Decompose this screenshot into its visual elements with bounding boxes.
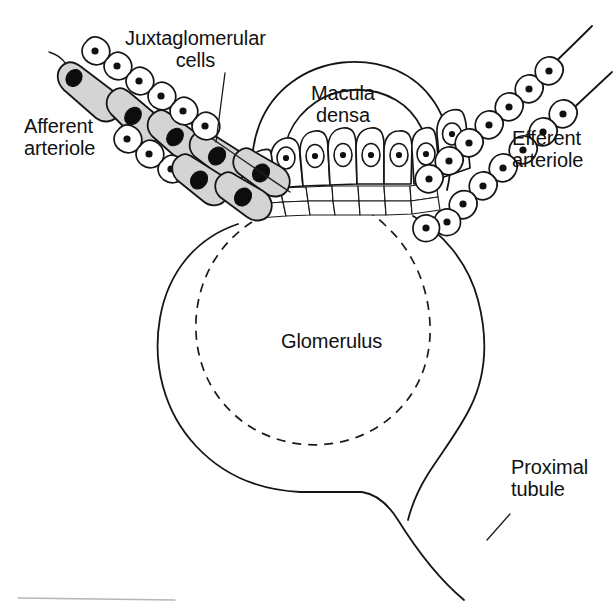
label-juxtaglomerular-cells: Juxtaglomerular cells	[125, 27, 266, 72]
label-efferent-arteriole: Efferent arteriole	[512, 127, 583, 172]
nucleus-dot	[499, 164, 506, 171]
mesangial-cell	[358, 186, 385, 201]
bowmans-capsule-right	[408, 216, 484, 520]
mesangial-cell	[332, 186, 359, 201]
nucleus-dot	[340, 152, 346, 158]
nucleus-dot	[396, 152, 402, 158]
nucleus-dot	[368, 152, 374, 158]
label-afferent-arteriole: Afferent arteriole	[24, 115, 95, 160]
nucleus-dot	[283, 155, 289, 161]
nucleus-dot	[485, 121, 492, 128]
figure-root: Juxtaglomerular cells Afferent arteriole…	[0, 0, 615, 611]
nucleus-dot	[459, 200, 466, 207]
nucleus-dot	[525, 85, 532, 92]
nucleus-dot	[559, 110, 566, 117]
nucleus-dot	[145, 150, 152, 157]
mesangial-cell	[283, 201, 310, 216]
nucleus-dot	[91, 47, 98, 54]
label-proximal-tubule: Proximal tubule	[511, 456, 588, 501]
nucleus-dot	[423, 151, 429, 157]
mesangial-cell	[384, 186, 411, 201]
nucleus-dot	[123, 135, 130, 142]
nucleus-dot	[113, 62, 120, 69]
nucleus-dot	[425, 175, 432, 182]
glomerulus-group	[158, 208, 485, 600]
nucleus-dot	[312, 153, 318, 159]
label-glomerulus: Glomerulus	[281, 330, 382, 352]
juxtaglomerular-apparatus-diagram	[0, 0, 615, 611]
nucleus-dot	[422, 224, 429, 231]
nucleus-dot	[157, 92, 164, 99]
label-macula-densa: Macula densa	[311, 82, 375, 127]
nucleus-dot	[505, 103, 512, 110]
scan-edge-artifact	[18, 598, 175, 600]
proximal-tubule-leader-line	[487, 514, 510, 540]
mesangial-cell	[385, 201, 412, 215]
nucleus-dot	[135, 77, 142, 84]
nucleus-dot	[479, 182, 486, 189]
juxtaglomerular-cells-leader-line	[216, 73, 225, 142]
afferent-arteriole-lumen-line	[49, 52, 66, 64]
bowmans-capsule-outline	[158, 224, 464, 600]
mesangial-cell	[359, 201, 386, 215]
mesangial-cell	[333, 201, 360, 215]
nucleus-dot	[465, 139, 472, 146]
mesangial-cell	[308, 201, 335, 215]
efferent-cell-chain-curve	[413, 209, 461, 242]
nucleus-dot	[179, 107, 186, 114]
nucleus-dot	[201, 122, 208, 129]
nucleus-dot	[445, 157, 452, 164]
nucleus-dot	[449, 131, 455, 137]
nucleus-dot	[545, 67, 552, 74]
nucleus-dot	[443, 218, 450, 225]
mesangial-cell	[306, 186, 333, 201]
glomerular-tuft-dashed-boundary	[196, 208, 430, 445]
